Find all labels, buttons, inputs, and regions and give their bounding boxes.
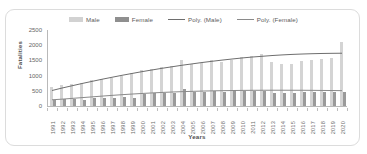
bar-female xyxy=(253,91,256,106)
x-axis-tick-label: 2009 xyxy=(230,121,236,134)
bar-group xyxy=(68,30,78,106)
x-axis-tick-label: 1994 xyxy=(80,121,86,134)
bar-group xyxy=(118,30,128,106)
legend-label-female: Female xyxy=(132,16,153,23)
x-axis-tickmark xyxy=(57,108,58,111)
bar-female xyxy=(143,94,146,106)
bar-group xyxy=(218,30,228,106)
legend-label-male: Male xyxy=(86,16,100,23)
x-axis-tick-label: 1997 xyxy=(110,121,116,134)
x-axis-tick-label: 1993 xyxy=(70,121,76,134)
bar-group xyxy=(168,30,178,106)
bar-female xyxy=(263,91,266,106)
y-axis-tick-label: 1000 xyxy=(29,73,42,79)
bar-female xyxy=(323,92,326,106)
x-axis-tickmark xyxy=(97,108,98,111)
bar-group xyxy=(108,30,118,106)
y-axis-ticks: 05001000150020002500 xyxy=(20,30,44,106)
x-axis-tick-label: 2013 xyxy=(270,121,276,134)
bar-group xyxy=(208,30,218,106)
legend-item-female: Female xyxy=(115,16,153,23)
x-axis-tick-label: 2015 xyxy=(290,121,296,134)
x-axis-tick-label: 1996 xyxy=(100,121,106,134)
x-axis-tickmark xyxy=(117,108,118,111)
bar-group xyxy=(248,30,258,106)
x-axis-tick-label: 1999 xyxy=(130,121,136,134)
bar-group xyxy=(328,30,338,106)
bar-female xyxy=(243,91,246,106)
bar-group xyxy=(48,30,58,106)
bar-group xyxy=(158,30,168,106)
y-axis-tick-label: 1500 xyxy=(29,57,42,63)
bar-female xyxy=(183,89,186,106)
bar-group xyxy=(258,30,268,106)
x-axis-tickmark xyxy=(327,108,328,111)
x-axis-tick-label: 2010 xyxy=(240,121,246,134)
x-axis-tickmark xyxy=(277,108,278,111)
x-axis-tick-label: 1995 xyxy=(90,121,96,134)
bar-female xyxy=(73,99,76,106)
x-axis-tick-label: 2003 xyxy=(170,121,176,134)
bar-group xyxy=(338,30,348,106)
x-axis-tick-label: 2017 xyxy=(310,121,316,134)
legend-swatch-poly-male-icon xyxy=(168,19,185,20)
x-axis-tick-label: 1991 xyxy=(50,121,56,134)
y-axis-tick-label: 500 xyxy=(32,88,42,94)
bar-female xyxy=(203,92,206,106)
x-axis-tick-label: 2006 xyxy=(200,121,206,134)
bar-female xyxy=(213,91,216,106)
x-axis-tickmark xyxy=(337,108,338,111)
x-axis-line xyxy=(47,106,347,107)
bar-group xyxy=(278,30,288,106)
x-axis-tickmark xyxy=(187,108,188,111)
bar-female xyxy=(303,92,306,106)
bar-group xyxy=(88,30,98,106)
x-axis-tickmark xyxy=(87,108,88,111)
bar-group xyxy=(148,30,158,106)
x-axis-tickmark xyxy=(67,108,68,111)
bar-group xyxy=(268,30,278,106)
bar-female xyxy=(343,92,346,106)
x-axis-tickmark xyxy=(127,108,128,111)
bar-female xyxy=(313,92,316,106)
bar-female xyxy=(223,92,226,106)
bar-group xyxy=(238,30,248,106)
x-axis-tick-label: 2004 xyxy=(180,121,186,134)
bar-female xyxy=(103,98,106,107)
x-axis-tickmark xyxy=(47,108,48,111)
x-axis-tick-label: 2001 xyxy=(150,121,156,134)
bar-female xyxy=(233,90,236,106)
y-axis-tick-label: 2500 xyxy=(29,27,42,33)
legend-swatch-female-icon xyxy=(115,17,129,22)
x-axis-tick-label: 2018 xyxy=(320,121,326,134)
bar-female xyxy=(293,93,296,106)
x-axis-tickmark xyxy=(287,108,288,111)
legend-swatch-male-icon xyxy=(69,17,83,22)
x-axis-tickmark xyxy=(157,108,158,111)
x-axis-tickmark xyxy=(207,108,208,111)
x-axis-tickmark xyxy=(297,108,298,111)
x-axis-tick-label: 1998 xyxy=(120,121,126,134)
bar-female xyxy=(133,98,136,106)
x-axis-tickmark xyxy=(307,108,308,111)
x-axis-tickmark xyxy=(227,108,228,111)
bar-female xyxy=(153,93,156,106)
x-axis-tick-label: 2014 xyxy=(280,121,286,134)
x-axis-tick-label: 2002 xyxy=(160,121,166,134)
bar-female xyxy=(93,98,96,106)
x-axis-tick-label: 2007 xyxy=(210,121,216,134)
bar-group xyxy=(58,30,68,106)
x-axis-tickmark xyxy=(267,108,268,111)
x-axis-tick-label: 2000 xyxy=(140,121,146,134)
legend-item-male: Male xyxy=(69,16,100,23)
bar-female xyxy=(163,93,166,106)
bar-group xyxy=(178,30,188,106)
x-axis-title: Years xyxy=(47,133,347,140)
bar-group xyxy=(138,30,148,106)
bar-female xyxy=(283,93,286,106)
x-axis-tickmark xyxy=(197,108,198,111)
x-axis-tickmark xyxy=(237,108,238,111)
x-axis-tick-label: 2012 xyxy=(260,121,266,134)
x-axis-tickmark xyxy=(177,108,178,111)
x-axis-tickmark xyxy=(347,108,348,111)
